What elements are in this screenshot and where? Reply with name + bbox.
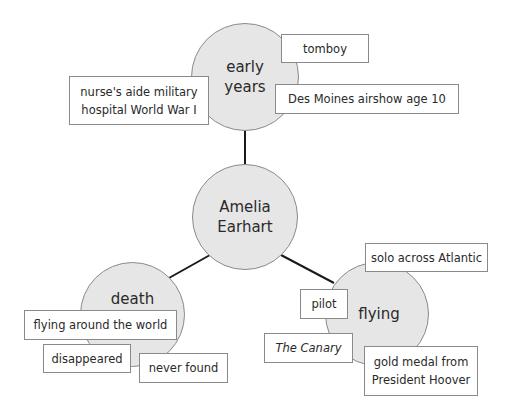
node-early-years-label: early years	[224, 57, 265, 97]
detail-box-nurses-aide[interactable]: nurse's aide military hospital World War…	[69, 76, 209, 125]
detail-box-the-canary[interactable]: The Canary	[264, 333, 353, 363]
detail-box-flying-around-the-world[interactable]: flying around the world	[24, 310, 177, 340]
detail-box-solo-across-atlantic[interactable]: solo across Atlantic	[365, 243, 488, 272]
connector-center-to-flying	[281, 255, 334, 283]
node-center-amelia-earhart[interactable]: Amelia Earhart	[192, 164, 298, 270]
detail-box-tomboy[interactable]: tomboy	[281, 34, 369, 63]
detail-box-disappeared[interactable]: disappeared	[43, 344, 131, 373]
concept-map: early years Amelia Earhart death flying …	[0, 0, 509, 418]
detail-box-never-found[interactable]: never found	[139, 353, 228, 383]
node-flying-label: flying	[358, 304, 400, 324]
node-death-label: death	[111, 289, 154, 309]
connector-center-to-death	[169, 255, 210, 278]
detail-box-des-moines-airshow[interactable]: Des Moines airshow age 10	[275, 84, 459, 114]
detail-box-gold-medal-hoover[interactable]: gold medal from President Hoover	[364, 346, 478, 396]
node-center-label: Amelia Earhart	[217, 197, 272, 237]
detail-box-pilot[interactable]: pilot	[300, 289, 348, 319]
